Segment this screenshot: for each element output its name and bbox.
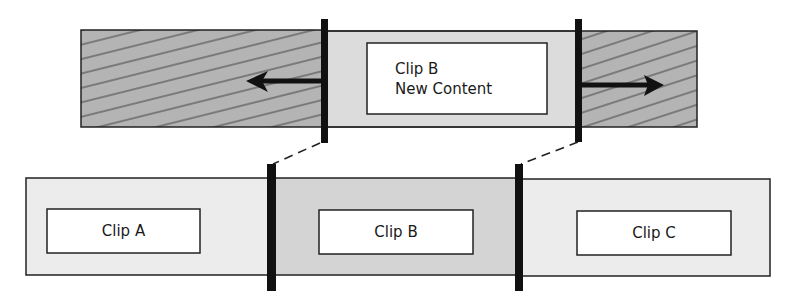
clip-b-new-content-label: Clip B New Content [367, 43, 547, 114]
source-in-point-handle[interactable] [321, 19, 328, 143]
overwrite-edit-diagram: Clip B New Content Clip A Clip B Clip C [0, 0, 789, 301]
right-extension-hatched [578, 31, 697, 127]
connector-in-dashed [273, 143, 320, 164]
clip-b-label-wrap: Clip B [319, 210, 473, 254]
clip-b-label: Clip B [374, 222, 417, 242]
clip-c-label-wrap: Clip C [577, 211, 731, 255]
clip-a-label: Clip A [102, 221, 145, 241]
clip-c-label: Clip C [632, 223, 676, 243]
timeline-in-point-handle[interactable] [267, 164, 276, 291]
clip-a-label-wrap: Clip A [47, 209, 200, 253]
source-out-point-handle[interactable] [575, 19, 582, 142]
clip-b-subtitle: New Content [395, 79, 492, 99]
clip-b-title: Clip B [395, 59, 438, 79]
connector-out-dashed [521, 142, 578, 164]
timeline-out-point-handle[interactable] [515, 164, 523, 291]
